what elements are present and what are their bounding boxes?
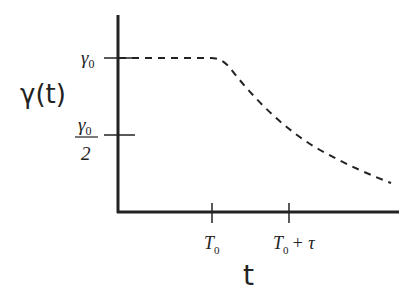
y-tick-label-gamma0: γ0 — [81, 47, 95, 71]
x-tick-label-T0-plus-tau: T0+ τ — [273, 233, 315, 256]
y-axis-label: γ(t) — [20, 79, 66, 109]
x-tick-label-T0: T0 — [204, 233, 220, 256]
y-tick-label-gamma0-half-num: γ0 — [78, 114, 92, 138]
y-tick-label-gamma0-half-den: 2 — [81, 143, 91, 164]
gamma-curve — [119, 58, 391, 183]
x-axis-label: t — [243, 259, 254, 292]
gamma-decay-diagram: γ(t) γ0 γ0 2 T0 T0+ τ t — [0, 0, 417, 304]
